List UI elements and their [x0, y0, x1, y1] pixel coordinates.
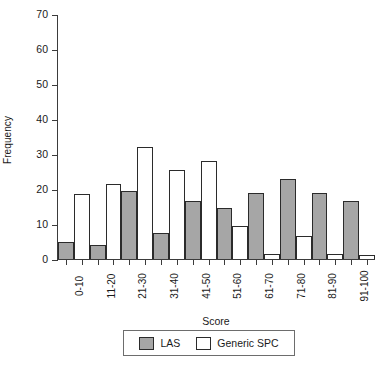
x-tick [58, 260, 74, 265]
y-tick: 20 [52, 190, 57, 191]
x-label-cell: 41-50 [185, 266, 217, 314]
bar [232, 226, 248, 259]
bar [137, 147, 153, 259]
y-tick-label: 60 [22, 43, 48, 55]
x-tick [280, 260, 296, 265]
bar-series-container [58, 14, 375, 259]
x-tick-label: 21-30 [137, 273, 148, 299]
x-tick [359, 260, 375, 265]
x-tick [248, 260, 264, 265]
x-tick [327, 260, 343, 265]
bar [106, 184, 122, 259]
x-tick-label: 0-10 [74, 276, 85, 296]
bar-group [121, 14, 153, 259]
bar-group [248, 14, 280, 259]
bar [312, 193, 328, 260]
y-tick: 50 [52, 85, 57, 86]
x-label-cell: 11-20 [90, 266, 122, 314]
y-axis-title: Frequency [2, 95, 13, 185]
bar-group [185, 14, 217, 259]
x-tick [201, 260, 217, 265]
y-tick-label: 10 [22, 218, 48, 230]
x-axis-category-labels: 0-1011-2021-3031-4041-5051-6061-7071-808… [58, 266, 375, 314]
y-tick: 70 [52, 15, 57, 16]
chart-legend: LAS Generic SPC [123, 330, 295, 356]
x-tick [216, 260, 232, 265]
x-tick [296, 260, 312, 265]
y-tick-label: 70 [22, 8, 48, 20]
x-tick-label: 41-50 [201, 273, 212, 299]
bar [58, 242, 74, 260]
x-label-cell: 71-80 [280, 266, 312, 314]
bar [343, 201, 359, 259]
bar [327, 254, 343, 259]
x-label-cell: 61-70 [248, 266, 280, 314]
bar [264, 254, 280, 259]
bar [121, 191, 137, 259]
x-tick [312, 260, 328, 265]
x-label-cell: 51-60 [217, 266, 249, 314]
bar [359, 255, 375, 259]
bar [217, 208, 233, 259]
legend-item-generic-spc: Generic SPC [196, 337, 278, 350]
x-axis-ticks [58, 260, 375, 265]
legend-label-las: LAS [160, 337, 180, 349]
legend-item-las: LAS [139, 337, 180, 350]
bar-group [58, 14, 90, 259]
x-tick [74, 260, 90, 265]
y-tick-label: 40 [22, 113, 48, 125]
x-tick [169, 260, 185, 265]
x-tick [106, 260, 122, 265]
plot-area: 010203040506070 [57, 15, 375, 260]
bar-group [217, 14, 249, 259]
bar [248, 193, 264, 260]
y-tick: 30 [52, 155, 57, 156]
x-tick [121, 260, 137, 265]
x-label-cell: 31-40 [153, 266, 185, 314]
x-label-cell: 0-10 [58, 266, 90, 314]
bar-group [90, 14, 122, 259]
bar [296, 236, 312, 259]
y-tick: 0 [52, 260, 57, 261]
y-tick: 60 [52, 50, 57, 51]
y-tick-label: 50 [22, 78, 48, 90]
bar [74, 194, 90, 259]
x-tick-label: 31-40 [169, 273, 180, 299]
x-tick [232, 260, 248, 265]
x-label-cell: 81-90 [312, 266, 344, 314]
bar-group [312, 14, 344, 259]
x-label-cell: 21-30 [121, 266, 153, 314]
bar [280, 179, 296, 260]
legend-swatch-generic-spc-icon [196, 337, 211, 350]
x-tick-label: 81-90 [327, 273, 338, 299]
bar [201, 161, 217, 259]
x-tick [137, 260, 153, 265]
x-axis-title: Score [57, 315, 375, 327]
bar [185, 201, 201, 259]
x-tick-label: 51-60 [232, 273, 243, 299]
y-tick-label: 30 [22, 148, 48, 160]
x-tick-label: 61-70 [264, 273, 275, 299]
x-tick-label: 91-100 [359, 270, 370, 301]
y-tick: 40 [52, 120, 57, 121]
bar-group [153, 14, 185, 259]
x-tick [153, 260, 169, 265]
legend-swatch-las-icon [139, 337, 154, 350]
bar-group [343, 14, 375, 259]
x-tick [185, 260, 201, 265]
histogram-chart: Frequency 010203040506070 0-1011-2021-30… [0, 0, 386, 366]
bar [169, 170, 185, 259]
y-tick-label: 20 [22, 183, 48, 195]
x-tick [264, 260, 280, 265]
bar [153, 233, 169, 259]
x-tick-label: 71-80 [296, 273, 307, 299]
bar [90, 245, 106, 259]
y-tick: 10 [52, 225, 57, 226]
x-tick [90, 260, 106, 265]
x-tick [343, 260, 359, 265]
x-tick-label: 11-20 [106, 274, 117, 299]
x-label-cell: 91-100 [343, 266, 375, 314]
legend-label-generic-spc: Generic SPC [217, 337, 278, 349]
y-tick-label: 0 [22, 253, 48, 265]
bar-group [280, 14, 312, 259]
